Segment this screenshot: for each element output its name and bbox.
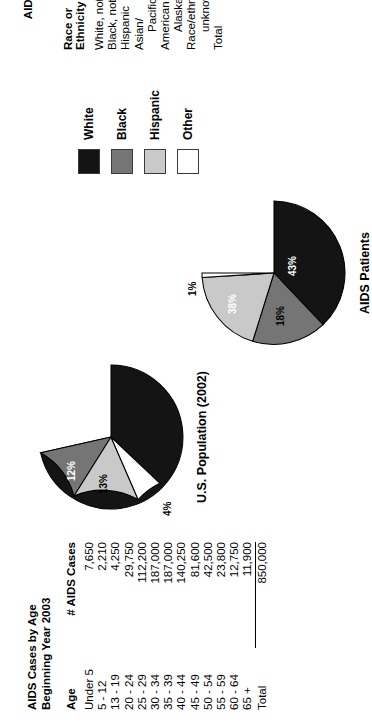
legend-label-other: Other <box>181 108 195 140</box>
table-row: 45 - 49 81,600 <box>189 542 202 710</box>
legend: White Black Hispanic Other <box>78 64 210 174</box>
legend-item-white: White <box>78 64 100 174</box>
race-table-col-race-header-line2: Ethnicity <box>74 0 86 50</box>
legend-item-hispanic: Hispanic <box>144 64 166 174</box>
table-row: Under 5 7,650 <box>83 542 96 710</box>
age-row-label: 65 + <box>241 648 255 710</box>
race-table-header-row: Race or # AIDS Cases <box>62 0 74 50</box>
age-row-label: 5 - 12 <box>96 648 109 710</box>
age-table-panel: AIDS Cases by Age Beginning Year 2003 Ag… <box>26 542 269 710</box>
table-row: Race/ethnicity 425 <box>185 0 198 50</box>
age-row-label: Under 5 <box>83 648 96 710</box>
age-table-header-row: Age # AIDS Cases <box>65 542 77 710</box>
legend-swatch-hispanic-icon <box>144 149 166 174</box>
age-row-label: 35 - 39 <box>162 648 175 710</box>
aids-patients-pie-chart <box>199 198 349 348</box>
table-row: Hispanic 153,000 <box>119 0 132 50</box>
race-row-label: American Indian/ <box>159 0 172 50</box>
age-row-value: 187,000 <box>149 542 162 648</box>
pie-value-label-white: 43% <box>287 256 298 276</box>
race-table: Race or # AIDS Cases Ethnicity White, no… <box>62 0 226 50</box>
race-table-header-row2: Ethnicity <box>74 0 86 50</box>
table-row: 20 - 24 29,750 <box>123 542 136 710</box>
age-table-col-age-header: Age <box>65 648 77 710</box>
table-row: Black, not Hispanic 323,000 <box>106 0 119 50</box>
table-row: American Indian/ 2,125 <box>159 0 172 50</box>
age-total-value: 850,000 <box>256 542 269 648</box>
race-row-label: Race/ethnicity <box>185 0 198 50</box>
table-row: 50 - 54 42,500 <box>202 542 215 710</box>
age-row-label: 45 - 49 <box>189 648 202 710</box>
race-table-title-line1: AIDS Cases by Race or Ethnicity <box>22 0 36 50</box>
table-row: White, not Hispanic 365,500 <box>93 0 106 50</box>
age-table-title-line1: AIDS Cases by Age <box>26 542 40 710</box>
age-row-value: 112,200 <box>136 542 149 648</box>
pie-value-label-black: 38% <box>227 294 238 314</box>
pie-value-label-hispanic: 13% <box>98 474 109 494</box>
table-row-cont: unknown <box>199 0 212 50</box>
age-row-label: 25 - 29 <box>136 648 149 710</box>
pie-value-label-other: 1% <box>187 282 198 296</box>
age-row-value: 187,000 <box>162 542 175 648</box>
age-row-value: 140,250 <box>175 542 188 648</box>
age-row-label: 55 - 59 <box>215 648 228 710</box>
us-population-pie-panel: 71% 12% 13% 4% U.S. Population (2002) <box>36 362 209 512</box>
table-row-cont: Alaska Native <box>172 0 185 50</box>
age-table: Age # AIDS Cases Under 5 7,650 5 - 12 2,… <box>65 542 269 710</box>
age-total-label: Total <box>256 648 269 710</box>
race-table-col-race-header-line1: Race or <box>62 0 74 50</box>
age-table-title-line2: Beginning Year 2003 <box>40 542 54 710</box>
pie-value-label-other: 4% <box>162 502 173 516</box>
pie-value-label-black: 12% <box>66 461 77 481</box>
age-row-value: 81,600 <box>189 542 202 648</box>
aids-patients-pie-caption: AIDS Patients <box>358 198 372 348</box>
table-row: 55 - 59 23,800 <box>215 542 228 710</box>
table-row: 40 - 44 140,250 <box>175 542 188 710</box>
race-row-label: Asian/ <box>133 0 146 50</box>
legend-item-other: Other <box>177 64 199 174</box>
age-row-value: 23,800 <box>215 542 228 648</box>
age-row-label: 50 - 54 <box>202 648 215 710</box>
legend-swatch-other-icon <box>177 149 199 174</box>
legend-label-white: White <box>82 107 96 140</box>
pie-value-label-hispanic: 18% <box>275 306 286 326</box>
age-row-value: 42,500 <box>202 542 215 648</box>
age-row-label: 40 - 44 <box>175 648 188 710</box>
table-row-cont: Pacific Islander <box>146 0 159 50</box>
us-population-pie-chart <box>36 362 186 512</box>
legend-label-black: Black <box>115 108 129 140</box>
table-row: 5 - 12 2,210 <box>96 542 109 710</box>
spacer <box>86 0 93 50</box>
race-row-label: Black, not Hispanic <box>106 0 119 50</box>
age-table-col-cases-header: # AIDS Cases <box>65 542 77 648</box>
age-row-label: 30 - 34 <box>149 648 162 710</box>
age-row-value: 2,210 <box>96 542 109 648</box>
legend-item-black: Black <box>111 64 133 174</box>
age-row-label: 20 - 24 <box>123 648 136 710</box>
age-row-label: 13 - 19 <box>109 648 122 710</box>
table-row: 35 - 39 187,000 <box>162 542 175 710</box>
age-row-label: 60 - 64 <box>228 648 241 710</box>
table-row: 30 - 34 187,000 <box>149 542 162 710</box>
race-table-title-line2: Beginning Year 2003 <box>36 0 50 50</box>
age-row-value: 29,750 <box>123 542 136 648</box>
legend-swatch-black-icon <box>111 149 133 174</box>
race-table-total-row: Total 850,000 <box>212 0 225 50</box>
race-row-label-cont: unknown <box>199 0 212 50</box>
race-row-label: Hispanic <box>119 0 132 50</box>
legend-label-hispanic: Hispanic <box>148 90 162 140</box>
legend-swatch-white-icon <box>78 149 100 174</box>
age-row-value: 7,650 <box>83 542 96 648</box>
table-row: 25 - 29 112,200 <box>136 542 149 710</box>
race-row-label-cont: Alaska Native <box>172 0 185 50</box>
table-row: 13 - 19 4,250 <box>109 542 122 710</box>
race-row-label: White, not Hispanic <box>93 0 106 50</box>
race-row-label-cont: Pacific Islander <box>146 0 159 50</box>
race-total-label: Total <box>212 0 225 50</box>
table-row: Asian/ 5,950 <box>133 0 146 50</box>
table-row: 65 + 11,900 <box>241 542 255 710</box>
table-row: 60 - 64 12,750 <box>228 542 241 710</box>
age-row-value: 4,250 <box>109 542 122 648</box>
